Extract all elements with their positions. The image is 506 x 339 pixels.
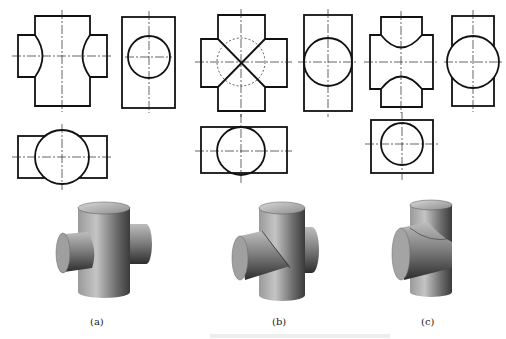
- faint-caption-bleed: [210, 334, 390, 338]
- panel-a-label: (a): [90, 316, 104, 327]
- panel-a-3d-model: [56, 202, 152, 298]
- panel-c-label: (c): [421, 316, 434, 327]
- panel-c-front-view: [364, 11, 438, 113]
- panel-b-front-view: [195, 9, 292, 117]
- panel-c-side-view: [444, 10, 502, 112]
- panel-b-side-view: [298, 9, 358, 117]
- panel-c-top-view: [365, 112, 439, 180]
- panel-b-label: (b): [272, 316, 286, 327]
- panel-b-top-view: [195, 114, 292, 184]
- panel-c-3d-model: [392, 200, 452, 297]
- panel-a-top-view: [12, 124, 112, 190]
- projection-diagram: [0, 0, 506, 339]
- panel-b-3d-model: [232, 202, 319, 301]
- panel-a-front-view: [12, 10, 112, 112]
- panel-a-side-view: [122, 11, 175, 113]
